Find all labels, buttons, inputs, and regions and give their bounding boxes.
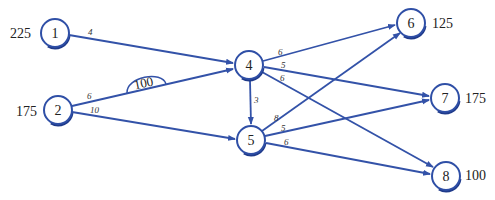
edge-4-8 [262, 72, 433, 167]
edge-5-8 [266, 143, 430, 174]
svg-text:5: 5 [248, 133, 255, 148]
svg-text:1: 1 [52, 26, 59, 41]
edge-cost-5-6: 8 [274, 113, 279, 123]
edge-cost-4-7: 5 [281, 60, 286, 70]
edge-5-7 [265, 100, 429, 136]
edge-cost-4-8: 6 [280, 73, 285, 83]
network-diagram: 4 6 10 3 6 5 6 8 5 6 100 1 225 [0, 0, 495, 200]
node-8: 8 100 [432, 162, 486, 191]
svg-text:8: 8 [443, 169, 450, 184]
supply-1: 225 [10, 26, 31, 41]
edge-4-6 [263, 25, 395, 61]
capacity-label: 100 [132, 74, 154, 93]
svg-text:4: 4 [246, 58, 253, 73]
svg-text:7: 7 [442, 91, 449, 106]
edge-cost-5-7: 5 [281, 123, 286, 133]
edge-cost-5-8: 6 [284, 137, 289, 147]
node-5: 5 [237, 126, 265, 155]
edge-cost-2-4: 6 [87, 91, 92, 101]
edge-cost-4-5: 3 [253, 95, 259, 105]
demand-7: 175 [465, 91, 486, 106]
edge-4-5 [250, 80, 251, 124]
edge-1-4 [69, 35, 233, 63]
edge-cost-1-4: 4 [88, 27, 93, 37]
svg-text:2: 2 [55, 103, 62, 118]
edge-2-5 [72, 112, 235, 139]
demand-8: 100 [465, 168, 486, 183]
demand-6: 125 [432, 16, 453, 31]
node-6: 6 125 [397, 9, 453, 38]
capacity-annotation: 100 [127, 74, 166, 93]
node-4: 4 [235, 51, 263, 80]
svg-text:6: 6 [408, 16, 415, 31]
edge-cost-2-5: 10 [90, 105, 100, 115]
supply-2: 175 [16, 104, 37, 119]
node-7: 7 175 [431, 84, 486, 113]
edge-cost-4-6: 6 [278, 47, 283, 57]
node-1: 1 225 [10, 19, 69, 48]
node-2: 2 175 [16, 96, 72, 125]
